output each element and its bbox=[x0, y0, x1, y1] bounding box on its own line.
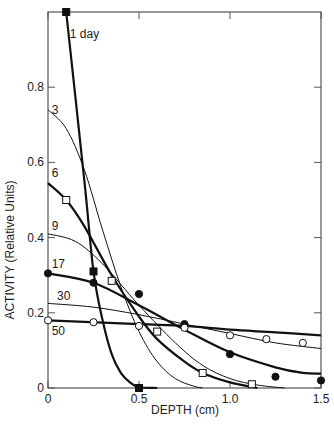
y-tick-label: 0.2 bbox=[27, 306, 44, 320]
square-marker bbox=[154, 328, 161, 335]
square-marker bbox=[63, 197, 70, 204]
circle-marker bbox=[90, 279, 97, 286]
x-axis-label: DEPTH (cm) bbox=[151, 403, 219, 417]
square-marker bbox=[248, 381, 255, 388]
circle-marker bbox=[90, 319, 97, 326]
x-tick-label: 0.5 bbox=[131, 392, 148, 406]
curve-labels: 1 day369173050 bbox=[52, 27, 100, 338]
circle-marker bbox=[272, 373, 279, 380]
circle-marker bbox=[263, 336, 270, 343]
curve-9 bbox=[48, 234, 285, 388]
circle-marker bbox=[226, 351, 233, 358]
x-tick-label: 1.5 bbox=[313, 392, 330, 406]
curve-label: 9 bbox=[52, 219, 59, 233]
x-tick-label: 0 bbox=[45, 392, 52, 406]
curve-label: 50 bbox=[52, 324, 66, 338]
curve-1-day bbox=[66, 12, 157, 388]
depth-activity-chart: 00.51.01.500.20.40.60.8 1 day369173050 D… bbox=[0, 0, 334, 425]
square-marker bbox=[90, 268, 97, 275]
square-marker bbox=[63, 9, 70, 16]
y-tick-label: 0.6 bbox=[27, 155, 44, 169]
y-axis-label: ACTIVITY (Relative Units) bbox=[3, 180, 17, 319]
curve-label: 3 bbox=[52, 103, 59, 117]
x-tick-label: 1.0 bbox=[222, 392, 239, 406]
circle-marker bbox=[135, 290, 142, 297]
circle-marker bbox=[44, 270, 51, 277]
circle-marker bbox=[299, 339, 306, 346]
curve-6 bbox=[48, 183, 257, 388]
y-tick-label: 0.4 bbox=[27, 231, 44, 245]
circle-marker bbox=[44, 317, 51, 324]
y-tick-label: 0.8 bbox=[27, 80, 44, 94]
curve-label: 30 bbox=[57, 289, 71, 303]
circle-marker bbox=[135, 322, 142, 329]
circle-marker bbox=[181, 324, 188, 331]
circle-marker bbox=[226, 332, 233, 339]
square-marker bbox=[199, 369, 206, 376]
curve-label: 17 bbox=[52, 257, 66, 271]
square-marker bbox=[136, 385, 143, 392]
circle-marker bbox=[317, 377, 324, 384]
square-marker bbox=[108, 277, 115, 284]
y-tick-label: 0 bbox=[37, 381, 44, 395]
curve-label: 1 day bbox=[70, 27, 99, 41]
curve-label: 6 bbox=[52, 166, 59, 180]
